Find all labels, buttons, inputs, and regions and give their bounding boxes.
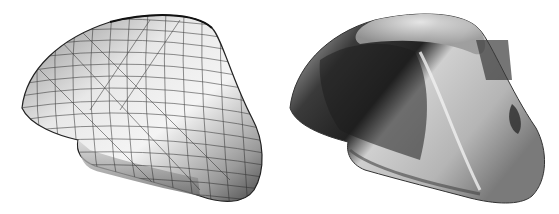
wireframe-render-panel [0,0,280,214]
body-shape [20,10,270,210]
chrome-body-shape [290,14,545,203]
chrome-render-panel [280,0,559,214]
chrome-surface-image [280,0,559,214]
wireframe-mesh-image [0,0,280,214]
